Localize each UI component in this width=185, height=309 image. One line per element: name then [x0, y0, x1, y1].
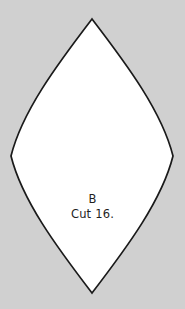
pattern-sheet: B Cut 16. — [0, 0, 185, 309]
cut-instruction-label: Cut 16. — [0, 207, 185, 222]
piece-id-label: B — [0, 192, 185, 207]
pattern-piece-shape — [0, 0, 185, 309]
pointed-oval-outline — [11, 19, 173, 293]
piece-label-group: B Cut 16. — [0, 192, 185, 221]
